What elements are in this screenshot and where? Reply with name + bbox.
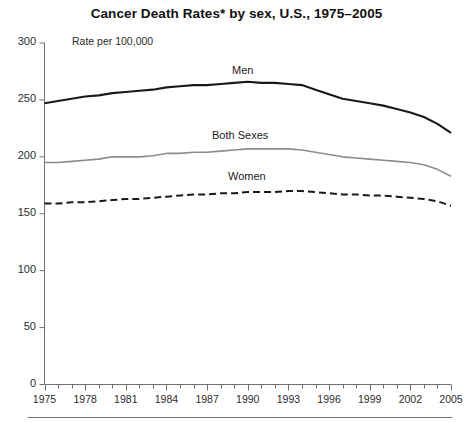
y-tick-label: 0	[2, 377, 36, 389]
x-tick-label: 1990	[228, 393, 268, 405]
y-tick-label: 50	[2, 320, 36, 332]
x-tick-label: 1996	[309, 393, 349, 405]
y-tick-label: 100	[2, 263, 36, 275]
series-line-women	[45, 191, 452, 206]
x-tick-label: 1975	[25, 393, 65, 405]
series-label-men: Men	[232, 64, 253, 76]
x-tick-label: 2005	[431, 393, 471, 405]
x-tick-label: 2002	[390, 393, 430, 405]
x-tick-label: 1984	[146, 393, 186, 405]
y-tick-label: 300	[2, 35, 36, 47]
y-axis-ticks	[40, 43, 45, 385]
data-series-group	[45, 82, 452, 206]
x-tick-label: 1978	[65, 393, 105, 405]
series-label-both-sexes: Both Sexes	[212, 129, 268, 141]
x-tick-label: 1993	[268, 393, 308, 405]
footer-rule	[28, 417, 452, 418]
series-label-women: Women	[228, 170, 266, 182]
chart-figure: Cancer Death Rates* by sex, U.S., 1975–2…	[0, 0, 473, 427]
y-tick-label: 200	[2, 149, 36, 161]
x-tick-label: 1987	[187, 393, 227, 405]
y-tick-label: 250	[2, 92, 36, 104]
x-tick-label: 1981	[106, 393, 146, 405]
series-line-men	[45, 82, 452, 133]
x-axis-ticks	[46, 385, 452, 391]
x-tick-label: 1999	[350, 393, 390, 405]
y-tick-label: 150	[2, 206, 36, 218]
